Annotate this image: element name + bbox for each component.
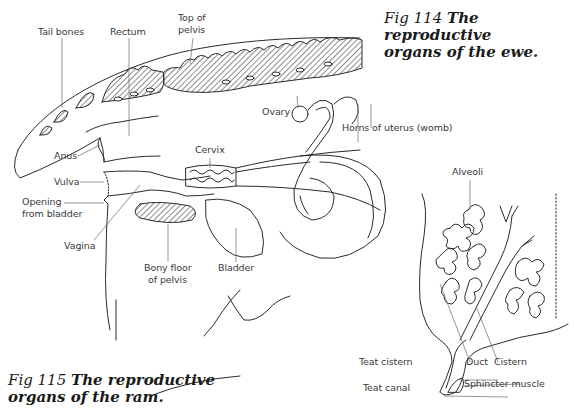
anatomy-drawing — [0, 0, 574, 410]
horn-inner-curl — [300, 196, 308, 214]
label-horns-of-uterus: Horns of uterus (womb) — [342, 122, 452, 134]
ovary — [292, 106, 308, 122]
cervix-bottom — [190, 178, 234, 182]
leader-cistern — [476, 306, 498, 362]
leader-duct — [440, 284, 470, 362]
label-sphincter-muscle: Sphincter muscle — [464, 378, 545, 390]
caption-fig114-number: Fig 114 — [384, 9, 442, 27]
caption-fig114: Fig 114 The reproductive organs of the e… — [384, 10, 574, 61]
label-rectum: Rectum — [110, 26, 146, 38]
duct-main — [460, 216, 532, 340]
label-opening-line1: Opening — [22, 196, 61, 208]
leader-vagina — [94, 185, 140, 240]
tail-bone — [40, 126, 52, 135]
rectum-body — [100, 138, 160, 162]
uterine-horn-1 — [294, 100, 334, 220]
label-vagina: Vagina — [64, 240, 96, 252]
alveoli-cluster-mid — [464, 204, 487, 304]
caption-fig115: Fig 115 The reproductive organs of the r… — [8, 372, 215, 406]
hind-contour-2 — [228, 296, 290, 320]
vagina-lower — [108, 190, 214, 196]
label-opening-line2: from bladder — [22, 208, 82, 220]
uterine-horn-outer-loop-2 — [320, 162, 374, 238]
uterine-horn-2 — [334, 97, 358, 124]
vulva-dotted — [104, 172, 109, 196]
opening-notch — [104, 196, 110, 330]
illustration-page: Tail bones Rectum Top of pelvis Ovary Ho… — [0, 0, 574, 410]
uterus-body-top — [236, 150, 360, 168]
alveoli-cluster-left — [436, 224, 474, 304]
label-alveoli: Alveoli — [452, 166, 483, 178]
label-teat-canal: Teat canal — [363, 382, 410, 394]
label-bladder: Bladder — [218, 262, 254, 274]
label-duct: Duct — [466, 356, 488, 368]
label-vulva: Vulva — [54, 176, 79, 188]
vagina-upper — [104, 171, 210, 180]
cervix-outline — [186, 165, 236, 188]
bony-floor-of-pelvis — [135, 202, 196, 222]
tail-bone — [76, 93, 94, 108]
label-bony-floor-line2: of pelvis — [148, 274, 187, 286]
duct-branch — [500, 206, 534, 246]
uterus-body-bottom — [236, 186, 380, 210]
label-cistern: Cistern — [494, 356, 527, 368]
rectum-upper — [86, 116, 158, 132]
label-bony-floor-line1: Bony floor — [144, 262, 192, 274]
caption-fig114-title-line2: organs of the ewe. — [384, 43, 538, 61]
leader-anus — [78, 145, 100, 156]
uterus-body-mid — [236, 162, 310, 172]
label-ovary: Ovary — [262, 106, 290, 118]
alveoli-cluster-right — [505, 258, 544, 318]
bladder — [206, 199, 264, 257]
label-tail-bones: Tail bones — [38, 26, 84, 38]
caption-fig115-title-line1: The reproductive — [71, 371, 215, 389]
label-top-of-pelvis-line2: pelvis — [178, 24, 205, 36]
caption-fig115-title-line2: organs of the ram. — [8, 388, 164, 406]
caption-fig115-number: Fig 115 — [8, 371, 66, 389]
cervix-top — [190, 170, 234, 174]
label-teat-cistern: Teat cistern — [359, 356, 413, 368]
leader-teat-canal — [444, 396, 508, 397]
udder-left-wall — [420, 194, 453, 392]
label-top-of-pelvis-line1: Top of — [178, 12, 206, 24]
label-cervix: Cervix — [195, 144, 225, 156]
label-anus: Anus — [54, 150, 77, 162]
hind-contour — [204, 290, 240, 336]
tail-bone — [54, 110, 68, 122]
sacral-bone — [102, 66, 164, 102]
